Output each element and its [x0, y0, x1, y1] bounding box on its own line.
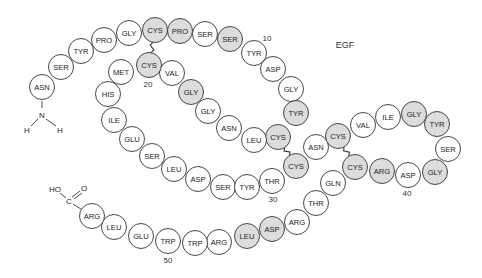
residue-45-arg: ARG [285, 210, 310, 235]
residue-label: SER [440, 145, 456, 154]
residue-40-asp: ASP [396, 163, 421, 188]
c-o-double-bond-1 [72, 191, 80, 197]
residue-label: GLY [407, 110, 422, 119]
residue-22-his: HIS [96, 82, 121, 107]
residue-23-ile: ILE [102, 108, 127, 133]
residue-label: CYS [288, 162, 304, 171]
residue-label: LEU [167, 165, 182, 174]
residue-8-ser: SER [193, 22, 218, 47]
residue-29-tyr: TYR [235, 175, 260, 200]
egf-diagram: ASNSERTYRPROGLYCYSPROSERSERTYRASPGLYTYRC… [0, 0, 482, 278]
residue-label: VAL [165, 69, 179, 78]
residue-5-gly: GLY [117, 21, 142, 46]
residue-25-ser: SER [140, 144, 165, 169]
residue-26-leu: LEU [162, 157, 187, 182]
residue-38-ser: SER [436, 137, 461, 162]
residue-28-ser: SER [211, 175, 236, 200]
h-atom-left-label: H [24, 126, 30, 135]
residue-label: ASN [308, 143, 324, 152]
residue-label: ARG [211, 238, 228, 247]
residue-35-ile: ILE [376, 105, 401, 130]
n-h-left-bond [31, 119, 38, 126]
residue-34-val: VAL [351, 113, 376, 138]
residue-50-trp: TRP [156, 229, 181, 254]
residue-label: LEU [107, 223, 122, 232]
residue-2-ser: SER [49, 55, 74, 80]
disulfide-bond-6-20 [150, 42, 154, 52]
residue-label: GLY [122, 29, 137, 38]
c-arg-bond [73, 204, 81, 209]
residue-label: GLY [184, 88, 199, 97]
residue-label: ARG [84, 212, 101, 221]
residue-label: ILE [382, 113, 393, 122]
residue-11-asp: ASP [261, 57, 286, 82]
residue-label: ARG [374, 167, 391, 176]
residue-7-pro: PRO [168, 19, 193, 44]
residue-label: CYS [141, 61, 157, 70]
residue-label: GLU [124, 135, 140, 144]
residue-label: ASN [34, 83, 50, 92]
residue-17-gly: GLY [196, 99, 221, 124]
disulfide-bond-14-31 [284, 148, 290, 156]
residue-51-glu: GLU [129, 224, 154, 249]
residue-14-cys: CYS [266, 125, 291, 150]
position-label-40: 40 [403, 189, 412, 198]
residue-46-asp: ASP [260, 217, 285, 242]
residue-label: GLY [428, 168, 443, 177]
residue-label: LEU [240, 232, 255, 241]
residue-label: SER [53, 63, 69, 72]
residue-label: HIS [102, 90, 115, 99]
residue-39-gly: GLY [423, 160, 448, 185]
residue-label: TYR [429, 120, 445, 129]
residue-19-val: VAL [160, 61, 185, 86]
residue-label: SER [222, 35, 238, 44]
residue-21-met: MET [109, 60, 134, 85]
residue-label: CYS [270, 133, 286, 142]
residue-42-cys: CYS [343, 155, 368, 180]
residue-16-asn: ASN [217, 116, 242, 141]
residue-label: THR [264, 177, 280, 186]
residue-label: ASP [400, 171, 415, 180]
residue-33-cys: CYS [326, 124, 351, 149]
residue-label: SER [197, 30, 213, 39]
residue-label: PRO [172, 27, 189, 36]
residue-37-tyr: TYR [425, 112, 450, 137]
residue-label: CYS [147, 26, 163, 35]
residue-label: ILE [108, 116, 119, 125]
position-label-20: 20 [144, 80, 153, 89]
residue-41-arg: ARG [370, 159, 395, 184]
residue-20-cys: CYS [137, 53, 162, 78]
residue-label: GLN [325, 179, 341, 188]
residue-label: TYR [239, 183, 255, 192]
residue-label: LEU [247, 136, 262, 145]
residue-label: MET [113, 68, 129, 77]
residue-13-tyr: TYR [284, 101, 309, 126]
residue-label: GLY [201, 107, 216, 116]
residue-label: TYR [73, 47, 89, 56]
disulfide-bond-33-42 [344, 147, 350, 156]
position-label-50: 50 [164, 256, 173, 265]
residue-18-gly: GLY [179, 80, 204, 105]
residue-label: ASP [265, 65, 280, 74]
residue-label: ASP [264, 225, 279, 234]
residue-label: THR [308, 199, 324, 208]
n-terminus: N H H [24, 101, 63, 135]
residue-4-pro: PRO [92, 28, 117, 53]
residue-36-gly: GLY [402, 102, 427, 127]
residue-47-leu: LEU [235, 224, 260, 249]
residue-label: SER [215, 183, 231, 192]
residue-label: GLY [284, 85, 299, 94]
n-h-right-bond [46, 119, 56, 126]
residue-label: VAL [356, 121, 370, 130]
residue-27-asp: ASP [186, 167, 211, 192]
position-label-10: 10 [263, 34, 272, 43]
residue-label: SER [144, 152, 160, 161]
residue-label: ASP [190, 175, 205, 184]
residue-label: TYR [246, 49, 262, 58]
residue-48-arg: ARG [207, 230, 232, 255]
residue-label: GLU [133, 232, 149, 241]
residue-49-trp: TRP [183, 231, 208, 256]
residue-43-gln: GLN [321, 171, 346, 196]
residue-24-glu: GLU [120, 127, 145, 152]
residue-label: CYS [347, 163, 363, 172]
